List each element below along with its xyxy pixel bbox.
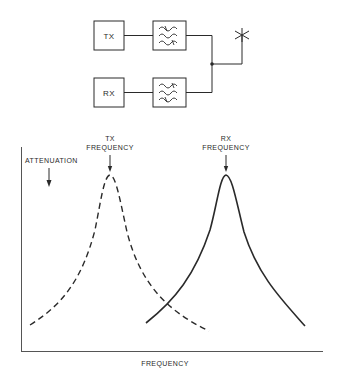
bandpass-filter-icon [159, 26, 177, 45]
tx-filter-block [153, 21, 186, 50]
tx-marker-label-line2: FREQUENCY [86, 144, 134, 152]
tx-label: TX [103, 32, 114, 41]
duplexer-diagram: TX RX ATTENUATION TX FREQUENCY RX FREQUE… [0, 0, 339, 382]
combiner-line [186, 36, 212, 93]
y-axis-label: ATTENUATION [25, 157, 78, 164]
junction-dot [210, 62, 214, 66]
tx-filter-response-curve [30, 175, 209, 331]
down-arrow-icon [224, 166, 228, 172]
rx-marker-label-line2: FREQUENCY [202, 144, 250, 152]
tx-marker-label-line1: TX [105, 135, 115, 142]
rx-filter-block [153, 78, 186, 107]
antenna-feed-line [212, 36, 242, 64]
rx-label: RX [103, 89, 115, 98]
down-arrow-icon [108, 166, 112, 172]
x-axis-label: FREQUENCY [141, 360, 189, 368]
rx-marker-label-line1: RX [221, 135, 232, 142]
antenna-icon [235, 28, 249, 42]
rx-filter-response-curve [146, 175, 305, 326]
down-arrow-icon [47, 180, 52, 187]
bandpass-filter-icon [159, 83, 177, 102]
